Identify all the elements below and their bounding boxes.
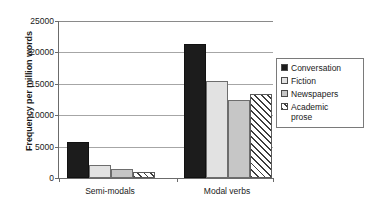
legend-item: Newspapers — [281, 89, 360, 99]
bar — [228, 100, 250, 178]
legend-item-label: Conversation — [291, 63, 341, 73]
legend-swatch-icon — [281, 77, 288, 84]
x-axis-category-label: Modal verbs — [204, 186, 250, 196]
bar — [133, 172, 155, 178]
x-axis-category-label: Semi-modals — [85, 186, 135, 196]
legend-item: Fiction — [281, 76, 360, 86]
legend-item-label: Fiction — [291, 76, 316, 86]
bar — [250, 94, 272, 178]
x-axis-tick-mark — [177, 178, 178, 182]
legend-swatch-icon — [281, 64, 288, 71]
y-axis-tick-label: 15000 — [10, 79, 59, 89]
plot-area: 0500010000150002000025000 — [58, 21, 273, 179]
y-axis-tick-label: 5000 — [10, 142, 59, 152]
x-axis-tick-mark — [273, 178, 274, 182]
bar-series-layer — [59, 21, 273, 178]
legend-item-label: Newspapers — [291, 89, 338, 99]
y-axis-tick-label: 20000 — [10, 47, 59, 57]
legend-item-label: Academic prose — [291, 102, 328, 122]
bar — [89, 165, 111, 178]
legend: ConversationFictionNewspapersAcademic pr… — [276, 58, 364, 128]
y-axis-tick-label: 0 — [10, 173, 59, 183]
bar — [67, 142, 89, 178]
bar-chart: Frequency per million words 050001000015… — [0, 0, 370, 210]
legend-swatch-icon — [281, 90, 288, 97]
y-axis-tick-label: 25000 — [10, 16, 59, 26]
legend-item: Conversation — [281, 63, 360, 73]
legend-swatch-icon — [281, 103, 288, 110]
bar — [184, 44, 206, 178]
bar — [111, 169, 133, 178]
y-axis-tick-label: 10000 — [10, 110, 59, 120]
bar — [206, 81, 228, 178]
x-axis-tick-mark — [59, 178, 60, 182]
legend-item: Academic prose — [281, 102, 360, 122]
